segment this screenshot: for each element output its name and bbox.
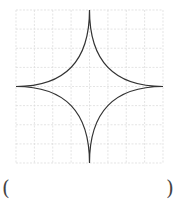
answer-left-paren: ( bbox=[2, 178, 10, 198]
answer-right-paren: ) bbox=[166, 178, 174, 198]
astroid-figure bbox=[0, 0, 176, 170]
grid bbox=[16, 10, 163, 163]
